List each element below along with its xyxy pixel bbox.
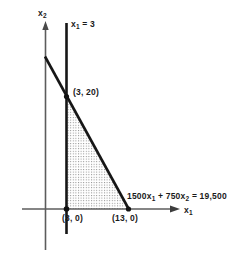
y-axis-label: x2 bbox=[38, 9, 47, 18]
constraint-label-x1-value: 3 bbox=[90, 19, 95, 29]
budget-rhs-value: 19,500 bbox=[200, 191, 227, 201]
vertex-marker-3-0 bbox=[64, 206, 70, 212]
x-axis-label: x1 bbox=[184, 206, 193, 215]
constraint-label-x1-operator: = bbox=[82, 19, 87, 29]
budget-coef-1: 1500x bbox=[127, 191, 152, 201]
budget-equals-operator: = bbox=[192, 191, 197, 201]
budget-plus-operator: + bbox=[158, 191, 163, 201]
budget-coef-2-subscript: 2 bbox=[185, 195, 189, 202]
vertex-label-13-0: (13, 0) bbox=[112, 214, 138, 223]
vertex-marker-13-0 bbox=[126, 206, 131, 211]
linear-programming-figure: x2 x1 x1 = 3 (3, 20) (3, 0) (13, 0) 1500… bbox=[0, 0, 251, 257]
x-axis-label-subscript: 1 bbox=[189, 209, 193, 216]
x-axis-arrowhead bbox=[170, 206, 180, 213]
constraint-label-x1-subscript: 1 bbox=[76, 23, 80, 30]
constraint-label-x1-equals-3: x1 = 3 bbox=[71, 20, 95, 29]
vertex-label-3-0: (3, 0) bbox=[62, 214, 83, 223]
y-axis-arrowhead bbox=[42, 21, 48, 30]
vertex-marker-3-20 bbox=[64, 94, 69, 99]
budget-coef-2: 750x bbox=[166, 191, 186, 201]
y-axis-label-subscript: 2 bbox=[43, 12, 47, 19]
vertex-label-3-20: (3, 20) bbox=[73, 88, 99, 97]
budget-coef-1-subscript: 1 bbox=[152, 195, 156, 202]
constraint-label-budget-equation: 1500x1 + 750x2 = 19,500 bbox=[127, 192, 227, 201]
